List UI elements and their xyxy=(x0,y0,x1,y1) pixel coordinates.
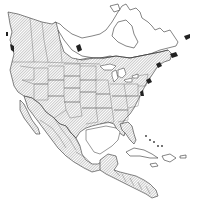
cuba xyxy=(126,148,158,158)
hispaniola xyxy=(162,154,176,162)
hatched-range-central-america xyxy=(100,154,158,198)
arctic-island xyxy=(110,4,120,12)
gulf-of-mexico xyxy=(86,126,120,154)
jamaica xyxy=(150,163,158,167)
map-container xyxy=(0,0,200,205)
bahamas xyxy=(145,135,163,147)
puerto-rico xyxy=(180,155,186,158)
north-america-map xyxy=(0,0,200,205)
